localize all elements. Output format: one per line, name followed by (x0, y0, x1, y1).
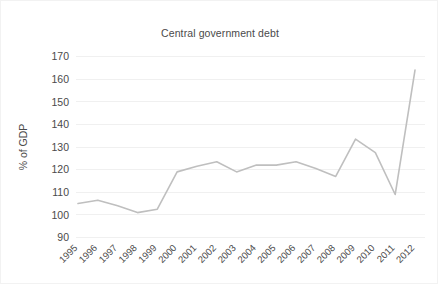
x-tick-label: 2009 (334, 242, 357, 265)
x-tick-label: 2006 (275, 242, 298, 265)
y-tick-label: 160 (51, 73, 69, 85)
x-tick-label: 2010 (354, 242, 377, 265)
x-tick-label: 2011 (374, 242, 396, 264)
x-tick-label: 1998 (116, 242, 139, 265)
y-tick-label: 130 (51, 141, 69, 153)
x-tick-label: 1997 (96, 242, 119, 265)
data-series-line (78, 70, 415, 213)
x-tick-label: 2007 (295, 242, 318, 265)
chart-container: Central government debt 9010011012013014… (0, 0, 438, 284)
y-tick-label: 170 (51, 50, 69, 62)
y-tick-label: 150 (51, 96, 69, 108)
x-tick-label: 2005 (255, 242, 278, 265)
gridlines-group (76, 57, 425, 238)
y-tick-label: 110 (52, 186, 69, 198)
y-tick-label: 120 (51, 163, 69, 175)
x-axis-tick-labels: 1995199619971998199920002001200220032004… (57, 242, 417, 265)
x-tick-label: 2002 (195, 242, 218, 265)
x-tick-label: 2004 (235, 242, 258, 265)
x-tick-label: 1995 (57, 242, 80, 265)
y-tick-label: 100 (51, 209, 69, 221)
line-chart: 90100110120130140150160170 1995199619971… (1, 1, 438, 284)
x-tick-label: 2008 (314, 242, 337, 265)
y-axis-tick-labels: 90100110120130140150160170 (51, 50, 69, 243)
y-tick-label: 90 (57, 231, 69, 243)
x-tick-label: 2001 (176, 242, 199, 265)
y-axis-title: % of GDP (17, 124, 29, 171)
x-tick-label: 1999 (136, 242, 159, 265)
x-tick-label: 2000 (156, 242, 179, 265)
x-tick-label: 2003 (215, 242, 238, 265)
x-tick-label: 2012 (394, 242, 417, 265)
x-tick-label: 1996 (77, 242, 100, 265)
y-tick-label: 140 (51, 118, 69, 130)
